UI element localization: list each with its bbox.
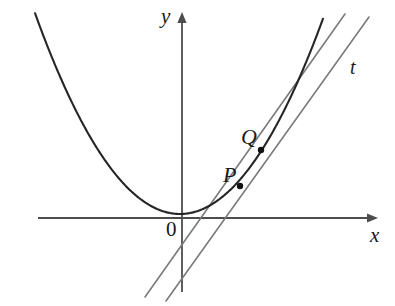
point-q-label: Q (241, 126, 257, 148)
point-q-marker (258, 147, 264, 153)
figure-canvas (0, 0, 395, 306)
tangent-line-label: t (350, 57, 356, 77)
tangent-line-t (166, 17, 369, 301)
y-axis-label: y (161, 6, 170, 27)
y-axis-arrow-icon (177, 12, 186, 23)
point-p-label: P (223, 164, 236, 186)
origin-label: 0 (166, 219, 177, 240)
parabola-tangent-figure: y x 0 P Q t (0, 0, 395, 306)
point-p-marker (237, 183, 243, 189)
x-axis (38, 213, 378, 222)
secant-line-pq (145, 14, 345, 297)
x-axis-label: x (370, 225, 379, 246)
parabola-curve (35, 13, 323, 214)
x-axis-arrow-icon (367, 213, 378, 222)
